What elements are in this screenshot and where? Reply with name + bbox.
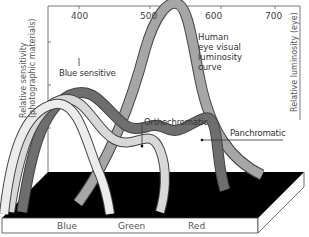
blue-sensitive-label: Blue sensitive	[59, 69, 116, 78]
wavelength-tick-500: 500	[140, 12, 157, 21]
wavelength-tick-600: 600	[205, 12, 222, 21]
wavelength-tick-700: 700	[265, 12, 282, 21]
left-axis-label-line2: (photographic materials)	[29, 19, 38, 118]
left-axis-label: Relative sensitivity (photographic mater…	[20, 19, 38, 118]
right-axis-label: Relative luminosity (eye)	[291, 12, 300, 112]
base-label-red: Red	[188, 222, 205, 231]
base-platform	[2, 172, 304, 233]
panchromatic-label: Panchromatic	[230, 129, 285, 138]
human-eye-curve-label: Human eye visual luminosity curve	[198, 32, 242, 72]
base-label-blue: Blue	[57, 222, 77, 231]
base-label-green: Green	[118, 222, 145, 231]
orthochromatic-label: Orthochromatic	[144, 118, 208, 127]
wavelength-tick-400: 400	[71, 12, 88, 21]
